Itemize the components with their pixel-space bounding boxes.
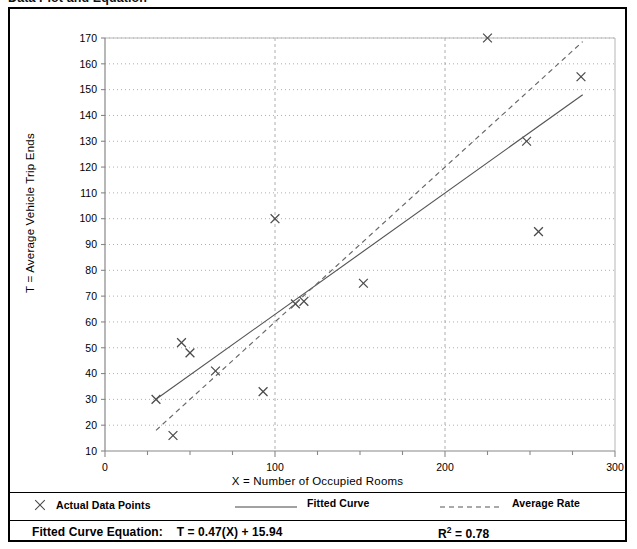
r-squared-value: R2 = 0.78 — [438, 525, 489, 541]
chart-legend: Actual Data Points Fitted Curve Average … — [10, 493, 625, 520]
svg-text:70: 70 — [85, 290, 97, 302]
svg-text:10: 10 — [85, 445, 97, 457]
data-point — [534, 227, 543, 236]
data-point — [271, 214, 280, 223]
svg-text:100: 100 — [79, 212, 97, 224]
svg-text:90: 90 — [85, 238, 97, 250]
svg-text:60: 60 — [85, 316, 97, 328]
r2-base: R — [438, 527, 447, 541]
equation-value: T = 0.47(X) + 15.94 — [177, 525, 283, 539]
svg-text:40: 40 — [85, 367, 97, 379]
chart-page: Data Plot and Equation 10203040506070809… — [0, 0, 637, 549]
data-point — [577, 72, 586, 81]
svg-text:300: 300 — [606, 461, 624, 473]
data-point — [169, 431, 178, 440]
legend-item-average-rate: Average Rate — [440, 497, 580, 509]
x-marker-icon — [32, 497, 48, 513]
data-point — [177, 338, 186, 347]
svg-text:80: 80 — [85, 264, 97, 276]
svg-text:200: 200 — [436, 461, 454, 473]
svg-text:130: 130 — [79, 135, 97, 147]
svg-text:110: 110 — [80, 187, 97, 199]
svg-text:0: 0 — [102, 461, 108, 473]
data-point — [259, 387, 268, 396]
x-axis-label: X = Number of Occupied Rooms — [10, 475, 625, 487]
svg-text:20: 20 — [85, 419, 97, 431]
data-point — [186, 349, 195, 358]
svg-text:150: 150 — [79, 83, 97, 95]
legend-label-actual-data-points: Actual Data Points — [56, 499, 151, 511]
equation-label: Fitted Curve Equation: — [32, 525, 163, 539]
r2-rest: = 0.78 — [452, 527, 490, 541]
data-point — [152, 395, 161, 404]
dashed-line-icon — [440, 498, 502, 508]
fitted-curve-equation: Fitted Curve Equation: T = 0.47(X) + 15.… — [32, 525, 283, 539]
data-point — [300, 297, 309, 306]
plot-area: 1020304050607080901001101201301401501601… — [10, 9, 625, 479]
page-title: Data Plot and Equation — [8, 0, 147, 5]
data-point — [359, 279, 368, 288]
legend-item-actual-data-points: Actual Data Points — [32, 497, 151, 513]
equation-row: Fitted Curve Equation: T = 0.47(X) + 15.… — [10, 521, 625, 544]
legend-item-fitted-curve: Fitted Curve — [235, 497, 369, 509]
svg-text:170: 170 — [79, 32, 97, 44]
svg-text:100: 100 — [266, 461, 284, 473]
svg-text:30: 30 — [85, 393, 97, 405]
svg-text:160: 160 — [79, 58, 97, 70]
legend-label-fitted-curve: Fitted Curve — [307, 497, 369, 509]
y-axis-label: T = Average Vehicle Trip Ends — [24, 43, 36, 383]
svg-text:120: 120 — [79, 161, 97, 173]
svg-text:140: 140 — [79, 109, 97, 121]
chart-frame: 1020304050607080901001101201301401501601… — [8, 7, 627, 542]
svg-text:50: 50 — [85, 342, 97, 354]
solid-line-icon — [235, 498, 297, 508]
scatter-plot-svg: 1020304050607080901001101201301401501601… — [10, 9, 625, 479]
legend-label-average-rate: Average Rate — [512, 497, 580, 509]
